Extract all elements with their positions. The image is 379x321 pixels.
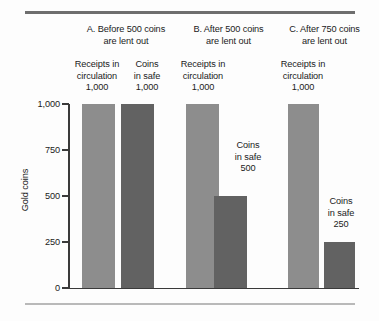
bottom-divider-rule: [25, 303, 355, 305]
bar-b-coins: [214, 196, 247, 288]
bank-reserves-bar-chart-figure: A. Before 500 coins are lent out B. Afte…: [0, 0, 379, 321]
bar-c-receipts: [288, 104, 319, 288]
bars-plot-area: [0, 0, 379, 288]
bar-a-receipts: [82, 104, 115, 288]
bar-a-coins: [121, 104, 154, 288]
bar-c-coins: [324, 242, 355, 288]
